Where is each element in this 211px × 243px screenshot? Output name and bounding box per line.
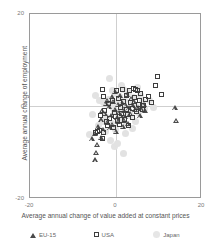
data-point-eu-15 xyxy=(94,142,100,147)
scatter-chart: Average annual change of employment 20 0… xyxy=(0,0,211,243)
chart-legend: EU-15 USA Japan xyxy=(0,231,211,238)
y-tick-label-mid: 0 xyxy=(2,103,24,109)
data-point-usa xyxy=(101,94,106,99)
plot-area xyxy=(29,13,201,198)
circle-marker-icon xyxy=(153,231,160,238)
data-point-usa xyxy=(122,117,127,122)
legend-label-japan: Japan xyxy=(163,232,179,238)
data-point-japan xyxy=(106,75,113,82)
y-tick-label-top: 20 xyxy=(2,10,24,16)
x-tick-label-left: -20 xyxy=(17,202,41,208)
data-point-usa xyxy=(126,123,131,128)
data-point-usa xyxy=(117,122,122,127)
legend-item-eu15[interactable]: EU-15 xyxy=(0,232,94,238)
data-point-eu-15 xyxy=(92,157,98,162)
data-point-usa xyxy=(106,101,111,106)
x-axis-label: Average annual change of value added at … xyxy=(0,213,211,220)
data-point-usa xyxy=(124,107,129,112)
x-tick-label-mid: 0 xyxy=(103,202,127,208)
data-point-usa xyxy=(111,125,116,130)
data-point-usa xyxy=(120,87,125,92)
data-point-usa xyxy=(118,105,123,110)
legend-item-usa[interactable]: USA xyxy=(94,232,154,238)
data-point-usa xyxy=(128,100,133,105)
data-point-eu-15 xyxy=(89,136,95,141)
data-point-usa xyxy=(146,94,151,99)
data-point-japan xyxy=(92,92,99,99)
data-point-eu-15 xyxy=(172,105,178,110)
data-point-usa xyxy=(137,98,142,103)
data-point-japan xyxy=(89,111,96,118)
triangle-marker-icon xyxy=(30,233,36,238)
data-point-usa xyxy=(155,74,160,79)
data-point-usa xyxy=(121,99,126,104)
data-point-japan xyxy=(122,130,129,137)
data-point-usa xyxy=(149,100,154,105)
data-point-usa xyxy=(104,119,109,124)
data-point-eu-15 xyxy=(93,150,99,155)
data-point-usa xyxy=(114,88,119,93)
x-tick-label-right: 20 xyxy=(189,202,211,208)
data-point-eu-15 xyxy=(173,118,179,123)
data-point-usa xyxy=(98,113,103,118)
data-point-usa xyxy=(110,98,115,103)
data-point-japan xyxy=(114,140,121,147)
data-point-usa xyxy=(140,107,145,112)
data-point-usa xyxy=(100,87,105,92)
data-point-japan xyxy=(120,150,127,157)
data-point-usa xyxy=(119,111,124,116)
data-point-usa xyxy=(101,130,106,135)
legend-item-japan[interactable]: Japan xyxy=(153,231,211,238)
data-point-usa xyxy=(130,115,135,120)
data-point-usa xyxy=(113,114,118,119)
data-point-usa xyxy=(138,91,143,96)
square-marker-icon xyxy=(94,232,99,237)
data-point-usa xyxy=(134,109,139,114)
y-tick-label-bottom: -20 xyxy=(2,195,24,201)
legend-label-eu15: EU-15 xyxy=(39,232,56,238)
data-point-usa xyxy=(102,108,107,113)
legend-label-usa: USA xyxy=(102,232,114,238)
data-point-usa xyxy=(124,93,129,98)
data-point-usa xyxy=(153,83,158,88)
data-point-usa xyxy=(159,92,164,97)
data-point-usa xyxy=(100,136,105,141)
